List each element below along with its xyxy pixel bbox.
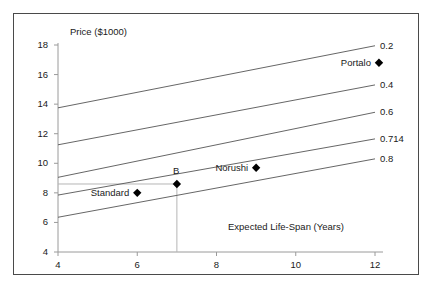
markers-group bbox=[133, 59, 383, 198]
x-tick-label: 12 bbox=[360, 259, 390, 270]
x-tick-label: 6 bbox=[122, 259, 152, 270]
curve-label-0.4: 0.4 bbox=[380, 79, 393, 90]
chart-figure: Price ($1000) Expected Life-Span (Years)… bbox=[0, 0, 434, 295]
x-tick-label: 4 bbox=[43, 259, 73, 270]
curve-0.2 bbox=[58, 46, 375, 108]
data-point-b[interactable] bbox=[173, 180, 181, 188]
y-tick-label: 16 bbox=[26, 69, 48, 80]
data-point-portalo[interactable] bbox=[375, 59, 383, 67]
data-point-standard[interactable] bbox=[133, 189, 141, 197]
chart-canvas bbox=[0, 0, 434, 295]
curve-label-0.2: 0.2 bbox=[380, 40, 393, 51]
y-tick-label: 6 bbox=[26, 216, 48, 227]
y-tick-label: 4 bbox=[26, 246, 48, 257]
x-tick-label: 8 bbox=[202, 259, 232, 270]
data-point-label-standard: Standard bbox=[0, 187, 129, 198]
data-point-norushi[interactable] bbox=[252, 164, 260, 172]
curve-label-0.6: 0.6 bbox=[380, 106, 393, 117]
x-tick-label: 10 bbox=[281, 259, 311, 270]
y-tick-label: 18 bbox=[26, 39, 48, 50]
data-point-label-portalo: Portalo bbox=[0, 57, 371, 68]
x-axis-title: Expected Life-Span (Years) bbox=[228, 221, 344, 232]
y-tick-label: 12 bbox=[26, 128, 48, 139]
data-point-label-norushi: Norushi bbox=[0, 162, 248, 173]
curve-0.4 bbox=[58, 85, 375, 145]
curve-label-0.714: 0.714 bbox=[380, 133, 404, 144]
curve-label-0.8: 0.8 bbox=[380, 153, 393, 164]
y-axis-title: Price ($1000) bbox=[70, 26, 127, 37]
y-tick-label: 14 bbox=[26, 98, 48, 109]
